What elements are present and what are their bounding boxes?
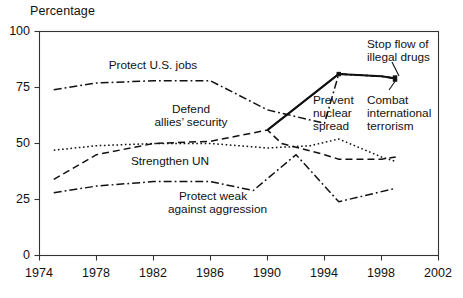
series-line-combat-international-terrorism xyxy=(268,74,396,130)
leader-line-combat xyxy=(389,80,396,90)
chart-figure: Percentage 100 75 50 25 0 1974 1978 1982… xyxy=(0,0,463,298)
series-line-prevent-nuclear-spread xyxy=(268,74,339,130)
series-peak-marker xyxy=(337,72,341,76)
chart-plot-area xyxy=(0,0,463,298)
series-line-strengthen-un xyxy=(54,139,396,161)
axes-group xyxy=(35,32,439,261)
series-group xyxy=(54,72,398,202)
leader-line-stop-flow xyxy=(392,62,399,76)
series-line-protect-weak-against-aggression xyxy=(54,155,396,202)
series-line-protect-u-s-jobs xyxy=(54,74,396,123)
series-line-defend-allies-security xyxy=(54,130,396,179)
